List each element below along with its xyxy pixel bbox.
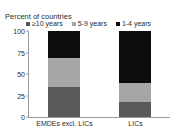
plot-area: 0255075100 — [28, 31, 170, 117]
y-tick-mark-3 — [26, 52, 28, 53]
bar-segment[interactable] — [119, 83, 151, 103]
legend-swatch-icon-1 — [72, 22, 76, 26]
y-tick-label-4: 100 — [13, 28, 25, 35]
bar-column-1 — [100, 31, 171, 117]
y-tick-mark-4 — [26, 31, 28, 32]
y-tick-label-3: 75 — [17, 49, 25, 56]
legend-label-2: 1-4 years — [122, 20, 151, 28]
y-tick-label-2: 50 — [17, 71, 25, 78]
stacked-bar[interactable] — [48, 31, 80, 117]
bar-segment[interactable] — [119, 102, 151, 117]
y-tick-label-0: 0 — [21, 114, 25, 121]
chart-container: Percent of countries ≥10 years 5-9 years… — [0, 0, 174, 140]
bar-segment[interactable] — [119, 31, 151, 83]
y-tick-mark-0 — [26, 117, 28, 118]
bar-segment[interactable] — [48, 58, 80, 87]
legend-swatch-icon-0 — [26, 22, 30, 26]
y-tick-label-1: 25 — [17, 92, 25, 99]
legend-label-0: ≥10 years — [32, 20, 63, 28]
legend-item-2[interactable]: 1-4 years — [116, 20, 151, 28]
y-tick-mark-2 — [26, 74, 28, 75]
bar-segment[interactable] — [48, 31, 80, 58]
legend-item-0[interactable]: ≥10 years — [26, 20, 63, 28]
legend-item-1[interactable]: 5-9 years — [72, 20, 107, 28]
legend-label-1: 5-9 years — [78, 20, 107, 28]
x-axis-labels: EMDEs excl. LICsLICs — [29, 120, 171, 128]
x-tick-label-1: LICs — [100, 120, 171, 128]
bar-segment[interactable] — [48, 87, 80, 117]
stacked-bar[interactable] — [119, 31, 151, 117]
bar-group — [29, 31, 170, 117]
x-tick-label-0: EMDEs excl. LICs — [29, 120, 100, 128]
bar-column-0 — [29, 31, 100, 117]
x-axis-line — [28, 117, 170, 118]
legend-swatch-icon-2 — [116, 22, 120, 26]
y-tick-mark-1 — [26, 95, 28, 96]
chart-legend: ≥10 years 5-9 years 1-4 years — [26, 20, 151, 28]
